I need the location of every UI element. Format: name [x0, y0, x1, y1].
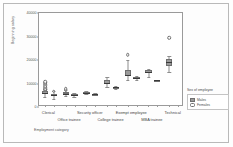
- median-line: [133, 78, 139, 79]
- boxplot-box: [51, 13, 57, 107]
- screenshot-root: Beginning salary Employment category 010…: [0, 0, 233, 147]
- boxplot-box: [83, 13, 89, 107]
- y-tick-mark: [37, 13, 39, 14]
- x-tick-mark: [178, 105, 179, 107]
- median-line: [104, 83, 110, 84]
- legend: Sex of employee MalesFemales: [187, 88, 229, 110]
- median-line: [145, 72, 151, 73]
- median-line: [83, 93, 89, 94]
- boxplot-box: [63, 13, 69, 107]
- whisker-upper: [127, 60, 128, 70]
- x-category-label: MBA trainee: [141, 117, 162, 122]
- x-category-label: Technical: [165, 110, 181, 115]
- outlier-point: [43, 80, 47, 84]
- median-line: [51, 95, 57, 96]
- median-line: [92, 94, 98, 95]
- outlier-point: [126, 53, 130, 57]
- y-tick-mark: [37, 83, 39, 84]
- boxplot-box: [113, 13, 119, 107]
- x-category-label: Security officer: [77, 110, 103, 115]
- outlier-point: [167, 36, 171, 40]
- y-tick-label: 40000: [27, 11, 37, 15]
- legend-item[interactable]: Males: [190, 98, 226, 102]
- median-line: [125, 75, 131, 76]
- boxplot-box: [166, 13, 172, 107]
- boxplot-box: [92, 13, 98, 107]
- boxplot-box: [154, 13, 160, 107]
- boxplot-box: [133, 13, 139, 107]
- legend-title: Sex of employee: [187, 88, 229, 92]
- whisker-cap-lower: [64, 96, 67, 97]
- y-tick-mark: [37, 60, 39, 61]
- legend-label: Males: [197, 98, 206, 102]
- median-line: [63, 94, 69, 95]
- whisker-cap-lower: [73, 97, 76, 98]
- legend-item[interactable]: Females: [190, 103, 226, 107]
- plot-area: 010000200003000040000: [38, 12, 183, 106]
- y-tick-label: 20000: [27, 58, 37, 62]
- median-line: [71, 95, 77, 96]
- whisker-cap-upper: [105, 77, 108, 78]
- x-category-label: Office trainee: [58, 117, 81, 122]
- y-tick-mark: [37, 36, 39, 37]
- whisker-cap-lower: [105, 87, 108, 88]
- outlier-point: [52, 90, 56, 94]
- boxplot-box: [104, 13, 110, 107]
- legend-swatch-males: [190, 98, 195, 102]
- x-axis-title: Employment category: [34, 128, 69, 132]
- whisker-cap-lower: [52, 99, 55, 100]
- whisker-cap-lower: [135, 80, 138, 81]
- median-line: [42, 93, 48, 94]
- y-tick-label: 10000: [27, 82, 37, 86]
- x-category-label: College trainee: [97, 117, 123, 122]
- whisker-cap-lower: [43, 97, 46, 98]
- x-category-label: Exempt employee: [116, 110, 147, 115]
- y-tick-label: 30000: [27, 35, 37, 39]
- boxplot-box: [71, 13, 77, 107]
- median-line: [154, 80, 160, 81]
- x-category-label: Clerical: [42, 110, 55, 115]
- boxplot-box: [125, 13, 131, 107]
- whisker-cap-upper: [126, 60, 129, 61]
- y-axis-title: Beginning salary: [11, 0, 15, 65]
- legend-swatch-females: [190, 103, 195, 107]
- median-line: [113, 87, 119, 88]
- whisker-cap-lower: [168, 72, 171, 73]
- legend-box: MalesFemales: [187, 94, 229, 110]
- whisker-cap-lower: [147, 77, 150, 78]
- whisker-cap-lower: [85, 94, 88, 95]
- outlier-point: [64, 87, 68, 91]
- whisker-cap-lower: [114, 89, 117, 90]
- whisker-cap-lower: [126, 80, 129, 81]
- boxplot-box: [42, 13, 48, 107]
- whisker-cap-upper: [168, 56, 171, 57]
- legend-label: Females: [197, 103, 210, 107]
- boxplot-box: [145, 13, 151, 107]
- y-tick-mark: [37, 107, 39, 108]
- median-line: [166, 62, 172, 63]
